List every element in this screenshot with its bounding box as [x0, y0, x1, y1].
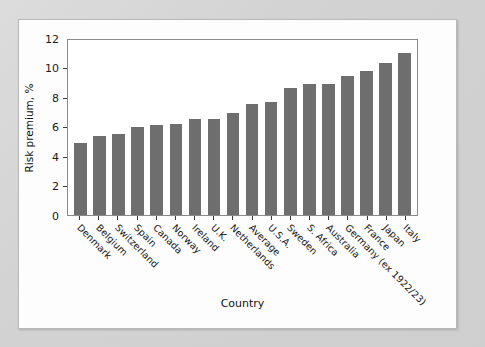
bar-slot: [300, 40, 319, 215]
bar-series: [68, 40, 417, 215]
bar[interactable]: [170, 124, 183, 215]
bar[interactable]: [284, 88, 297, 215]
x-axis-tick-mark: [232, 216, 233, 220]
x-axis-tick-mark: [98, 216, 99, 220]
x-axis-tick-mark: [213, 216, 214, 220]
x-axis-title: Country: [67, 297, 418, 310]
bar[interactable]: [208, 119, 221, 215]
bar-slot: [185, 40, 204, 215]
bar-slot: [243, 40, 262, 215]
plot-area: [67, 39, 418, 216]
bar[interactable]: [189, 119, 202, 215]
x-axis-tick-mark: [271, 216, 272, 220]
bar-slot: [71, 40, 90, 215]
bar[interactable]: [360, 71, 373, 215]
bar-slot: [338, 40, 357, 215]
bar[interactable]: [74, 143, 87, 215]
x-axis-tick-mark: [252, 216, 253, 220]
bar[interactable]: [322, 84, 335, 215]
x-axis-tick-mark: [309, 216, 310, 220]
bar-slot: [128, 40, 147, 215]
x-axis-label: Italy: [401, 222, 424, 245]
bar-slot: [147, 40, 166, 215]
x-axis-tick-mark: [156, 216, 157, 220]
y-axis-tick-label: 8: [52, 93, 63, 104]
bar-slot: [319, 40, 338, 215]
x-axis-tick-mark: [175, 216, 176, 220]
y-axis-tick-label: 10: [45, 63, 63, 74]
y-axis-tick-label: 0: [52, 211, 63, 222]
x-axis-tick-mark: [290, 216, 291, 220]
bar[interactable]: [398, 53, 411, 215]
bar[interactable]: [379, 63, 392, 215]
x-axis-tick-mark: [117, 216, 118, 220]
x-axis-tick-mark: [328, 216, 329, 220]
bar-slot: [395, 40, 414, 215]
bar[interactable]: [131, 127, 144, 216]
y-axis-tick-label: 6: [52, 122, 63, 133]
bar[interactable]: [265, 102, 278, 215]
bar[interactable]: [227, 113, 240, 215]
x-axis-tick-mark: [386, 216, 387, 220]
x-axis-tick-mark: [79, 216, 80, 220]
figure-backdrop: Risk premium, % 024681012 DenmarkBelgium…: [0, 0, 485, 347]
bar-slot: [262, 40, 281, 215]
y-axis-tick-label: 12: [45, 34, 63, 45]
y-axis: 024681012: [19, 39, 67, 216]
bar[interactable]: [112, 134, 125, 215]
bar[interactable]: [93, 136, 106, 215]
bar[interactable]: [303, 84, 316, 215]
bar-slot: [109, 40, 128, 215]
x-axis-tick-mark: [367, 216, 368, 220]
x-axis-tick-mark: [194, 216, 195, 220]
y-axis-tick-label: 2: [52, 181, 63, 192]
x-axis-tick-mark: [347, 216, 348, 220]
bar-slot: [376, 40, 395, 215]
chart-panel: Risk premium, % 024681012 DenmarkBelgium…: [18, 19, 457, 329]
bar[interactable]: [246, 104, 259, 215]
bar-slot: [281, 40, 300, 215]
bar-slot: [204, 40, 223, 215]
y-axis-tick-label: 4: [52, 152, 63, 163]
bar[interactable]: [150, 125, 163, 215]
bar-slot: [166, 40, 185, 215]
x-axis-tick-mark: [405, 216, 406, 220]
bar-slot: [224, 40, 243, 215]
bar-slot: [90, 40, 109, 215]
bar[interactable]: [341, 76, 354, 215]
bar-slot: [357, 40, 376, 215]
x-axis-tick-mark: [137, 216, 138, 220]
